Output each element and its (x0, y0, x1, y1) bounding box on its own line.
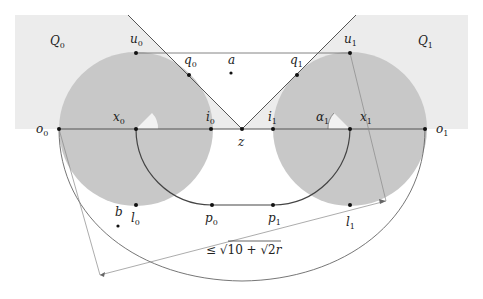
point-q0 (187, 73, 191, 77)
label-q1: q1 (290, 53, 303, 69)
point-x0 (134, 127, 138, 131)
point-p1 (271, 203, 275, 207)
point-u0 (134, 51, 138, 55)
geometry-diagram: Q0 Q1 u0 u1 q0 q1 a o0 x0 i0 z i1 α1 x1 … (0, 0, 483, 299)
point-i1 (271, 127, 275, 131)
point-x1 (348, 127, 352, 131)
label-l1: l1 (346, 215, 355, 231)
label-q0: q0 (184, 53, 197, 69)
label-z: z (237, 135, 245, 149)
arrow-tip-right (379, 199, 386, 204)
label-p0: p0 (205, 211, 218, 227)
point-l0 (134, 203, 138, 207)
point-q1 (295, 73, 299, 77)
point-z (240, 127, 244, 131)
point-i0 (209, 127, 213, 131)
point-a (229, 71, 232, 74)
point-l1 (348, 203, 352, 207)
point-p0 (210, 203, 214, 207)
point-o1 (423, 127, 427, 131)
label-l0: l0 (131, 211, 140, 227)
distance-bound-annotation: ≤ √10 + √2r (206, 243, 283, 257)
point-u1 (348, 51, 352, 55)
label-b: b (115, 205, 123, 219)
label-p1: p1 (268, 211, 281, 227)
point-o0 (57, 127, 61, 131)
point-b (116, 224, 119, 227)
label-a: a (228, 53, 235, 67)
